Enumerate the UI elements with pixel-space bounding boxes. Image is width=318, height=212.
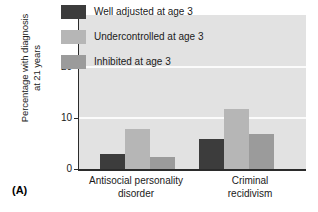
legend-label-undercontrolled: Undercontrolled at age 3	[94, 31, 204, 43]
panel-caption: (A)	[12, 184, 27, 196]
bar-inhibited-at-age-3-group-1	[249, 134, 274, 169]
bar-undercontrolled-at-age-3-group-1	[224, 109, 249, 169]
bar-undercontrolled-at-age-3-group-0	[125, 129, 150, 169]
legend-swatch-well-adjusted	[61, 5, 86, 19]
legend-label-well-adjusted: Well adjusted at age 3	[94, 6, 193, 18]
legend-swatch-inhibited	[61, 55, 86, 69]
gridline-10	[79, 117, 306, 119]
y-tick-label-0: 0	[50, 164, 72, 174]
y-axis-title: Percentage with diagnosis at 21 years	[19, 0, 51, 148]
bar-well-adjusted-at-age-3-group-1	[199, 139, 224, 169]
x-category-label-antisocial-personality-disorder: Antisocial personality disorder	[71, 175, 201, 200]
legend-swatch-undercontrolled	[61, 30, 86, 44]
legend-label-inhibited: Inhibited at age 3	[94, 56, 171, 68]
x-axis-line	[78, 169, 306, 171]
bar-chart-figure: Percentage with diagnosis at 21 years 30…	[0, 0, 318, 212]
y-tick-label-10: 10	[50, 113, 72, 123]
x-category-label-criminal-recidivism: Criminal recidivism	[195, 175, 305, 200]
bar-inhibited-at-age-3-group-0	[150, 157, 175, 169]
bar-well-adjusted-at-age-3-group-0	[100, 154, 125, 169]
